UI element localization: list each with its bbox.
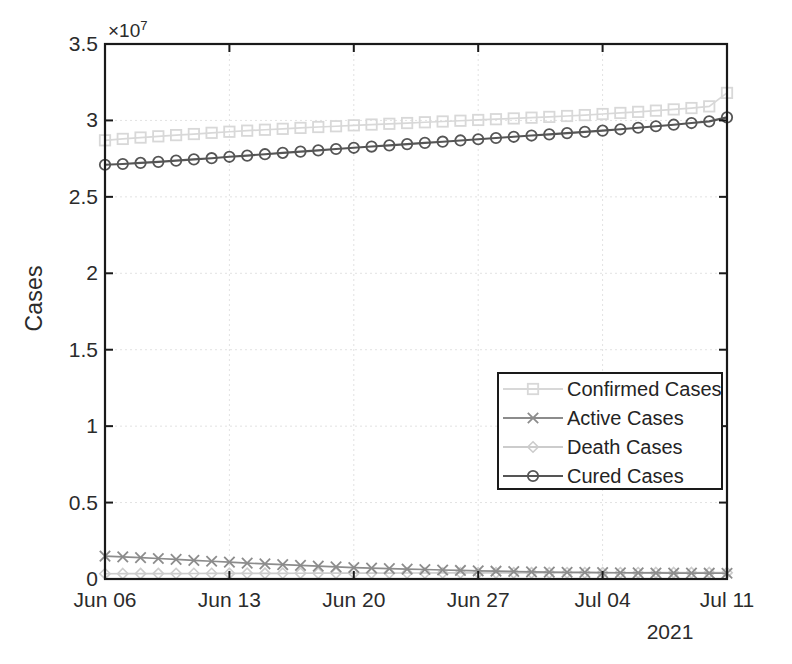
covid-cases-line-chart: Cases ×107 00.511.522.533.5 Jun 06Jun 13… xyxy=(0,0,792,664)
death-cases-diamond-marker-icon xyxy=(499,433,567,461)
active-cases-x-marker-icon xyxy=(499,404,567,432)
plot-area xyxy=(0,0,792,664)
confirmed-cases-square-marker-icon xyxy=(499,375,567,403)
legend-item-cured-cases[interactable]: Cured Cases xyxy=(499,461,721,490)
cured-cases-circle-marker-icon xyxy=(499,462,567,490)
legend: Confirmed Cases Active Cases Death Cases… xyxy=(497,372,723,490)
legend-item-death-cases[interactable]: Death Cases xyxy=(499,432,721,461)
legend-label-active-cases: Active Cases xyxy=(567,408,684,428)
series-confirmed-cases xyxy=(100,88,732,146)
legend-item-confirmed-cases[interactable]: Confirmed Cases xyxy=(499,374,721,403)
legend-label-confirmed-cases: Confirmed Cases xyxy=(567,379,722,399)
legend-label-cured-cases: Cured Cases xyxy=(567,466,684,486)
legend-item-active-cases[interactable]: Active Cases xyxy=(499,403,721,432)
legend-label-death-cases: Death Cases xyxy=(567,437,683,457)
